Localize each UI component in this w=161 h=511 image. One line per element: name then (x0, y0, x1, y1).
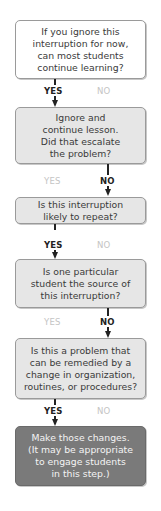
branch-yes-label: YES (44, 240, 63, 250)
arrow-down-icon (52, 419, 58, 426)
node-text-line: Ignore and (41, 112, 120, 124)
node-text-line: Is one particular (31, 266, 131, 278)
action-make-changes: Make those changes. (It may be appropria… (15, 426, 146, 486)
arrow-down-icon (105, 189, 111, 196)
node-text-line: Make those changes. (28, 432, 133, 444)
question-remedy-by-change: Is this a problem that can be remedied b… (15, 338, 146, 399)
node-text-line: continue lesson. (41, 124, 120, 136)
branch-yes-label: YES (44, 406, 63, 416)
question-repeat: Is this interruption likely to repeat? (15, 197, 146, 224)
connector-line (107, 308, 109, 316)
node-text-line: likely to repeat? (38, 211, 123, 223)
branch-yes-label: YES (44, 317, 61, 327)
arrow-down-icon (105, 331, 111, 338)
branch-no-label: NO (97, 86, 110, 96)
node-text-line: to engage students (28, 456, 133, 468)
question-particular-student: Is one particular student the source of … (15, 259, 146, 308)
branch-no-label: NO (97, 406, 110, 416)
connector-line (54, 79, 56, 85)
node-text-line: Is this a problem that (24, 345, 137, 357)
node-text-line: Did that escalate (41, 136, 120, 148)
question-escalate: Ignore and continue lesson. Did that esc… (15, 107, 146, 164)
node-text-line: change in organization, (24, 369, 137, 381)
branch-yes-label: YES (44, 86, 63, 96)
connector-line (107, 164, 109, 175)
node-text-line: interruption for now, (33, 38, 129, 50)
question-ignore-interruption: If you ignore this interruption for now,… (15, 20, 146, 79)
node-text-line: this interruption? (31, 290, 131, 302)
node-text-line: the problem? (41, 148, 120, 160)
arrow-down-icon (52, 252, 58, 259)
node-text-line: can be remedied by a (24, 357, 137, 369)
node-text-line: can most students (33, 50, 129, 62)
connector-line (54, 224, 56, 230)
node-text-line: (It may be appropriate (28, 444, 133, 456)
branch-no-label: NO (100, 176, 115, 186)
connector-line (54, 399, 56, 405)
branch-no-label: NO (100, 317, 115, 327)
node-text-line: routines, or procedures? (24, 381, 137, 393)
node-text-line: in this step.) (28, 468, 133, 480)
arrow-down-icon (52, 100, 58, 107)
node-text-line: student the source of (31, 278, 131, 290)
node-text-line: Is this interruption (38, 199, 123, 211)
branch-no-label: NO (97, 240, 110, 250)
node-text-line: If you ignore this (33, 26, 129, 38)
node-text-line: continue learning? (33, 62, 129, 74)
branch-yes-label: YES (44, 176, 61, 186)
